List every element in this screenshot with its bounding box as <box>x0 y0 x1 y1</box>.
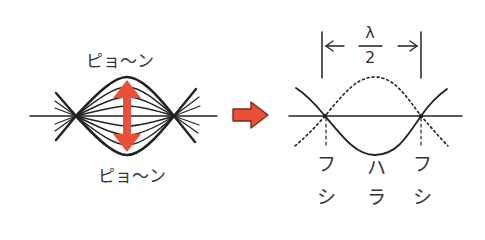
label-bottom-sound: ピョ〜ン <box>98 168 166 185</box>
node-label-left-bottom: シ <box>314 188 338 207</box>
node-label-left-top: フ <box>314 155 338 174</box>
wavelength-numerator: λ <box>358 25 382 41</box>
wavelength-denominator: 2 <box>358 50 382 66</box>
label-top-sound: ピョ〜ン <box>86 53 154 70</box>
antinode-label-bottom: ラ <box>364 188 388 207</box>
right-arrow-icon <box>233 102 268 128</box>
antinode-label-top: ハ <box>364 158 388 177</box>
node-label-right-bottom: シ <box>410 188 434 207</box>
node-label-right-top: フ <box>410 155 434 174</box>
